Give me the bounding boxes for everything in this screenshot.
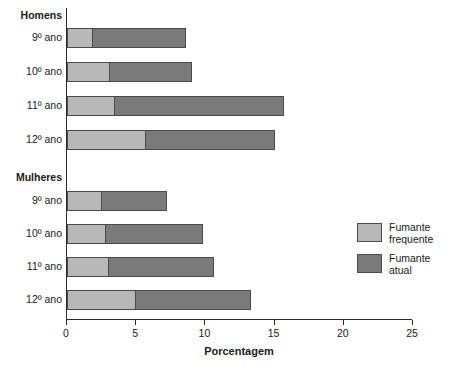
bar-homens-12	[67, 130, 275, 150]
x-axis-tick	[274, 320, 275, 325]
category-label-mulheres-9: 9º ano	[0, 195, 62, 206]
x-axis-tick-label: 5	[120, 327, 150, 339]
category-label-mulheres-11: 11º ano	[0, 261, 62, 272]
x-axis-tick	[66, 320, 67, 325]
bar-segment-fumante-frequente	[67, 224, 106, 244]
group-label-homens: Homens	[0, 10, 62, 21]
bar-homens-9	[67, 28, 186, 48]
category-label-mulheres-12: 12º ano	[0, 294, 62, 305]
bar-segment-fumante-frequente	[67, 290, 136, 310]
legend: Fumante frequente Fumante atual	[357, 222, 449, 284]
category-label-mulheres-10: 10º ano	[0, 228, 62, 239]
group-label-mulheres: Mulheres	[0, 172, 62, 183]
x-axis-tick	[412, 320, 413, 325]
bar-homens-10	[67, 62, 192, 82]
legend-swatch-icon-fumante-atual	[357, 254, 382, 273]
bar-mulheres-9	[67, 191, 167, 211]
bar-segment-fumante-atual	[146, 130, 275, 150]
legend-item-fumante-atual: Fumante atual	[357, 253, 449, 276]
bar-mulheres-10	[67, 224, 203, 244]
category-label-homens-12: 12º ano	[0, 134, 62, 145]
bar-mulheres-11	[67, 257, 214, 277]
legend-label-fumante-frequente: Fumante frequente	[389, 222, 433, 245]
category-axis-labels: Homens 9º ano 10º ano 11º ano 12º ano Mu…	[0, 8, 62, 320]
axis-title-porcentagem: Porcentagem	[66, 345, 412, 357]
bar-segment-fumante-frequente	[67, 257, 109, 277]
x-axis-tick-label: 0	[51, 327, 81, 339]
category-label-homens-11: 11º ano	[0, 100, 62, 111]
x-axis-tick-label: 20	[328, 327, 358, 339]
x-axis-tick-label: 15	[259, 327, 289, 339]
legend-item-fumante-frequente: Fumante frequente	[357, 222, 449, 245]
x-axis-tick-label: 25	[397, 327, 427, 339]
x-axis-tick	[135, 320, 136, 325]
category-label-homens-9: 9º ano	[0, 32, 62, 43]
bar-segment-fumante-atual	[106, 224, 203, 244]
bar-segment-fumante-frequente	[67, 62, 110, 82]
bar-segment-fumante-atual	[110, 62, 192, 82]
bar-segment-fumante-atual	[109, 257, 214, 277]
x-axis-tick	[204, 320, 205, 325]
bar-segment-fumante-frequente	[67, 96, 115, 116]
bar-segment-fumante-atual	[136, 290, 251, 310]
x-axis-tick	[343, 320, 344, 325]
bar-segment-fumante-frequente	[67, 28, 93, 48]
bar-segment-fumante-frequente	[67, 130, 146, 150]
bar-homens-11	[67, 96, 284, 116]
category-label-homens-10: 10º ano	[0, 66, 62, 77]
bar-segment-fumante-atual	[115, 96, 284, 116]
bar-segment-fumante-atual	[93, 28, 186, 48]
bar-segment-fumante-frequente	[67, 191, 102, 211]
legend-swatch-icon-fumante-frequente	[357, 223, 382, 242]
bar-segment-fumante-atual	[102, 191, 167, 211]
x-axis-tick-label: 10	[189, 327, 219, 339]
legend-label-fumante-atual: Fumante atual	[389, 253, 430, 276]
stacked-bar-chart: Homens 9º ano 10º ano 11º ano 12º ano Mu…	[0, 0, 450, 371]
bar-mulheres-12	[67, 290, 251, 310]
